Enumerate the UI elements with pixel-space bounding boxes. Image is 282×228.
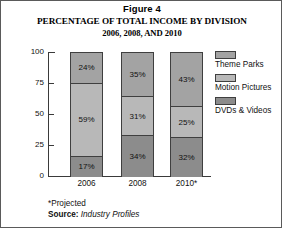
bar-segment[interactable]: 32% — [171, 137, 202, 177]
y-axis-tick — [49, 176, 54, 177]
legend: Theme ParksMotion PicturesDVDs & Videos — [215, 51, 282, 120]
legend-swatch-motion-pictures — [215, 74, 236, 82]
y-axis-tick-label: 25 — [16, 140, 44, 149]
legend-item-label: Motion Pictures — [215, 83, 282, 92]
legend-item[interactable]: Motion Pictures — [215, 74, 282, 92]
legend-item[interactable]: DVDs & Videos — [215, 97, 282, 115]
x-axis-tick-label: 2008 — [113, 179, 163, 188]
legend-item-label: Theme Parks — [215, 60, 282, 69]
footnote-source: Source: Industry Profiles — [48, 209, 139, 220]
figure-container: Figure 4 PERCENTAGE OF TOTAL INCOME BY D… — [0, 0, 282, 228]
bar-segment[interactable]: 31% — [122, 96, 153, 134]
footnote-source-value: Industry Profiles — [81, 210, 140, 219]
y-axis-tick-label: 75 — [16, 78, 44, 87]
x-axis-tick-label: 2010* — [162, 179, 212, 188]
bar-segment[interactable]: 59% — [71, 83, 102, 156]
y-axis-tick — [49, 114, 54, 115]
y-axis-tick — [49, 145, 54, 146]
y-axis-tick — [49, 52, 54, 53]
bar-segment[interactable]: 24% — [71, 53, 102, 83]
chart-title-line-2: 2006, 2008, AND 2010 — [1, 28, 282, 40]
legend-swatch-dvds-videos — [215, 97, 236, 105]
chart-title: PERCENTAGE OF TOTAL INCOME BY DIVISION 2… — [1, 16, 282, 39]
footnote-projected: *Projected — [48, 198, 139, 209]
footnote-source-label: Source: — [48, 210, 78, 219]
stacked-bar[interactable]: 35%31%34% — [121, 52, 154, 176]
stacked-bar[interactable]: 43%25%32% — [170, 52, 203, 176]
legend-swatch-theme-parks — [215, 51, 236, 59]
footnotes: *Projected Source: Industry Profiles — [48, 198, 139, 220]
plot-area: 0255075100 24%59%17%35%31%34%43%25%32% 2… — [48, 52, 211, 176]
bar-segment[interactable]: 43% — [171, 53, 202, 106]
figure-label: Figure 4 — [1, 3, 282, 14]
stacked-bar[interactable]: 24%59%17% — [70, 52, 103, 176]
bar-segment[interactable]: 35% — [122, 53, 153, 96]
legend-item[interactable]: Theme Parks — [215, 51, 282, 69]
x-axis-tick-label: 2006 — [62, 179, 112, 188]
bar-segment[interactable]: 17% — [71, 156, 102, 177]
chart-title-line-1: PERCENTAGE OF TOTAL INCOME BY DIVISION — [37, 16, 247, 26]
y-axis-tick-label: 100 — [16, 47, 44, 56]
bar-segment[interactable]: 25% — [171, 106, 202, 137]
y-axis-tick-label: 0 — [16, 171, 44, 180]
y-axis-tick-label: 50 — [16, 109, 44, 118]
legend-item-label: DVDs & Videos — [215, 106, 282, 115]
bar-segment[interactable]: 34% — [122, 135, 153, 177]
y-axis-tick — [49, 83, 54, 84]
